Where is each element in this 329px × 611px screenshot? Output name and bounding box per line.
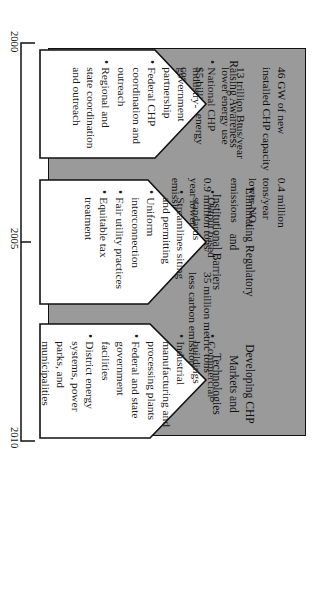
category-label-line: Raising Awareness bbox=[225, 38, 241, 170]
category-label-developing-chp: Developing CHP Markets and Technologies bbox=[208, 318, 257, 450]
category-label-line: and bbox=[224, 176, 240, 308]
benefits-box: 46 GW of new installed CHP capacity 13 t… bbox=[48, 48, 306, 436]
category-label-line: Developing CHP bbox=[241, 318, 257, 450]
benefit-line: installed CHP capacity bbox=[260, 67, 275, 178]
benefit-item-chp-capacity: 46 GW of new installed CHP capacity bbox=[260, 67, 289, 178]
benefit-line: emissions bbox=[168, 178, 183, 272]
diagram-stage: 46 GW of new installed CHP capacity 13 t… bbox=[0, 0, 329, 611]
subscript-2: 2 bbox=[185, 243, 194, 247]
timeline-tick-2000: 2000 bbox=[9, 31, 20, 52]
benefit-line: 46 GW of new bbox=[274, 67, 289, 178]
benefit-line: year lower SO2 bbox=[183, 178, 201, 272]
category-label-line: Markets and bbox=[224, 318, 240, 450]
figure-canvas: 46 GW of new installed CHP capacity 13 t… bbox=[0, 0, 329, 611]
category-label-line: Eliminating Regulatory bbox=[241, 176, 257, 308]
benefit-line: $5 billion energy bbox=[192, 67, 207, 178]
category-label-raising-awareness: Raising Awareness bbox=[225, 38, 241, 170]
benefit-line: less carbon emissions bbox=[186, 272, 201, 384]
benefit-line: cost savings bbox=[177, 67, 192, 178]
benefit-text: year lower SO bbox=[188, 178, 200, 244]
timeline-tick-2005: 2005 bbox=[9, 228, 20, 249]
benefit-line: 0.4 million tons/year bbox=[260, 178, 289, 272]
timeline-axis: 2000 2005 2010 bbox=[3, 41, 37, 443]
category-label-line: Technologies bbox=[208, 318, 224, 450]
category-label-line: Institutional Barriers bbox=[208, 176, 224, 308]
timeline-tick-2010: 2010 bbox=[9, 427, 20, 448]
category-label-eliminating-barriers: Eliminating Regulatory and Institutional… bbox=[208, 176, 257, 308]
benefit-item-cost-savings: $5 billion energy cost savings bbox=[177, 67, 206, 178]
